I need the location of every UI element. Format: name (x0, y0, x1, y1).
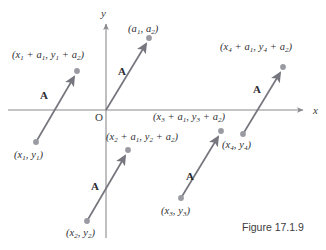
vector-2-head-dot (125, 147, 131, 153)
vector-2-label: A (91, 181, 99, 192)
point-label-p3-head: (x3 + a1, y3 + a2) (153, 112, 225, 124)
vector-1-label: A (40, 90, 48, 101)
vector-2-tail-dot (84, 218, 90, 224)
point-label-p1-head: (x1 + a1, y1 + a2) (12, 50, 84, 62)
figure-caption: Figure 17.1.9 (242, 222, 304, 233)
point-label-p2-head: (x2 + a1, y2 + a2) (106, 132, 178, 144)
vector-3-shaft (181, 137, 218, 198)
vector-origin-shaft (106, 44, 146, 110)
vector-1-group (33, 68, 80, 145)
point-label-a-head: (a1, a2) (128, 24, 158, 36)
vector-4-shaft (243, 73, 280, 134)
origin-label: O (95, 112, 103, 123)
vector-3-label: A (186, 171, 194, 182)
point-label-p1-tail: (x1, y1) (14, 150, 43, 162)
vector-origin-group (106, 35, 152, 110)
y-axis-label: y (101, 8, 106, 19)
point-label-p4-tail: (x4, y4) (222, 140, 251, 152)
vector-1-head-dot (74, 68, 80, 74)
vector-4-tail-dot (240, 131, 246, 137)
point-label-p4-head: (x4 + a1, y4 + a2) (220, 42, 292, 54)
vector-4-head-dot (280, 64, 286, 70)
point-label-p3-tail: (x3, y3) (161, 206, 190, 218)
vector-4-label: A (253, 84, 261, 95)
vector-origin-label: A (118, 66, 126, 77)
vector-origin-head-dot (146, 35, 152, 41)
vector-translation-figure: x y O A A A A A (x1 + a1, y1 + a2) (x1, … (0, 0, 326, 250)
vector-1-tail-dot (33, 139, 39, 145)
x-axis-label: x (313, 105, 318, 116)
vector-3-group (178, 128, 224, 201)
point-label-p2-tail: (x2, y2) (66, 228, 95, 240)
vector-3-head-dot (218, 128, 224, 134)
vector-4-group (240, 64, 286, 137)
vector-3-tail-dot (178, 195, 184, 201)
